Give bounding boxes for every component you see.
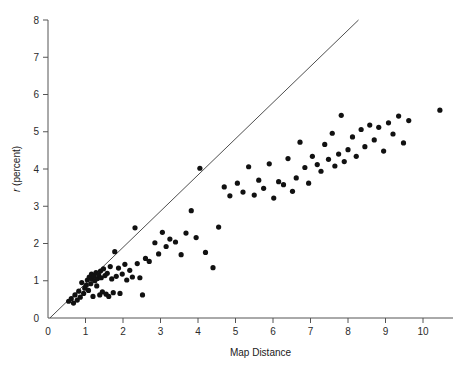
data-point — [111, 290, 116, 295]
data-point — [372, 137, 377, 142]
data-point — [112, 249, 117, 254]
data-point — [285, 156, 290, 161]
data-point — [294, 175, 299, 180]
data-point — [306, 181, 311, 186]
data-point — [105, 271, 110, 276]
data-point — [160, 230, 165, 235]
data-point — [101, 266, 106, 271]
data-point — [297, 140, 302, 145]
y-tick-label-1: 1 — [33, 275, 39, 286]
y-axis-title: r (percent) — [11, 146, 22, 192]
data-point — [76, 289, 81, 294]
data-point — [290, 189, 295, 194]
data-point — [109, 276, 114, 281]
data-point — [79, 280, 84, 285]
data-point — [381, 149, 386, 154]
data-point — [189, 208, 194, 213]
data-point — [124, 277, 129, 282]
data-point — [386, 120, 391, 125]
data-point — [132, 225, 137, 230]
data-point — [69, 296, 74, 301]
data-point — [106, 294, 111, 299]
data-point — [147, 259, 152, 264]
data-point — [94, 283, 99, 288]
data-point — [276, 179, 281, 184]
data-point — [173, 239, 178, 244]
data-point — [332, 163, 337, 168]
data-point — [267, 161, 272, 166]
y-tick-label-3: 3 — [33, 201, 39, 212]
data-point — [72, 292, 77, 297]
data-point — [152, 240, 157, 245]
data-point — [140, 292, 145, 297]
data-point — [137, 275, 142, 280]
data-point — [376, 125, 381, 130]
data-point — [406, 118, 411, 123]
data-point — [315, 162, 320, 167]
data-point — [271, 195, 276, 200]
data-point — [437, 108, 442, 113]
data-point — [90, 294, 95, 299]
data-point — [122, 262, 127, 267]
x-tick-label-9: 9 — [383, 326, 389, 337]
data-point — [240, 189, 245, 194]
data-point — [322, 142, 327, 147]
data-point — [345, 147, 350, 152]
data-points-group — [66, 108, 442, 306]
x-tick-label-10: 10 — [417, 326, 429, 337]
data-point — [362, 144, 367, 149]
data-point — [401, 140, 406, 145]
data-point — [81, 291, 86, 296]
data-point — [164, 244, 169, 249]
x-tick-label-5: 5 — [233, 326, 239, 337]
data-point — [339, 113, 344, 118]
data-point — [130, 274, 135, 279]
data-point — [194, 235, 199, 240]
data-point — [156, 251, 161, 256]
y-tick-label-0: 0 — [33, 313, 39, 324]
ticks-group: 012345678012345678910 — [33, 15, 429, 338]
y-tick-label-8: 8 — [33, 15, 39, 26]
data-point — [216, 225, 221, 230]
x-tick-label-4: 4 — [195, 326, 201, 337]
data-point — [354, 154, 359, 159]
x-tick-label-8: 8 — [345, 326, 351, 337]
data-point — [114, 274, 119, 279]
data-point — [179, 252, 184, 257]
data-point — [396, 114, 401, 119]
data-point — [197, 166, 202, 171]
data-point — [350, 134, 355, 139]
data-point — [256, 178, 261, 183]
data-point — [117, 291, 122, 296]
data-point — [108, 264, 113, 269]
plot-canvas: 012345678012345678910 Map Distancer (per… — [0, 0, 464, 375]
data-point — [359, 127, 364, 132]
data-point — [326, 157, 331, 162]
data-point — [127, 268, 132, 273]
x-tick-label-7: 7 — [308, 326, 314, 337]
x-tick-label-0: 0 — [45, 326, 51, 337]
y-tick-label-4: 4 — [33, 164, 39, 175]
data-point — [120, 271, 125, 276]
data-point — [135, 261, 140, 266]
y-tick-label-2: 2 — [33, 238, 39, 249]
data-point — [390, 131, 395, 136]
x-tick-label-3: 3 — [158, 326, 164, 337]
scatter-chart-figure: 012345678012345678910 Map Distancer (per… — [0, 0, 464, 375]
axis-labels-group: Map Distancer (percent) — [11, 146, 292, 358]
data-point — [210, 265, 215, 270]
data-point — [330, 131, 335, 136]
data-point — [336, 152, 341, 157]
y-tick-label-5: 5 — [33, 126, 39, 137]
data-point — [246, 164, 251, 169]
x-tick-label-2: 2 — [120, 326, 126, 337]
y-tick-label-6: 6 — [33, 89, 39, 100]
data-point — [222, 184, 227, 189]
data-point — [302, 165, 307, 170]
data-point — [235, 181, 240, 186]
data-point — [116, 265, 121, 270]
x-axis-title: Map Distance — [230, 347, 292, 358]
data-point — [310, 154, 315, 159]
data-point — [86, 288, 91, 293]
data-point — [227, 193, 232, 198]
